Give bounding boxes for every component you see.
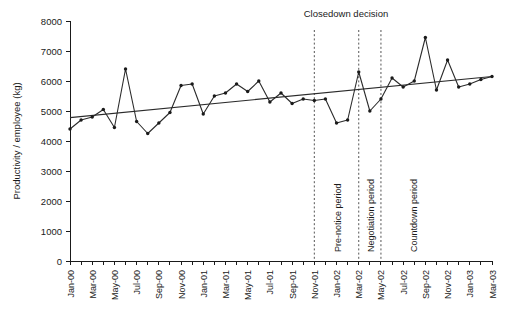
x-tick-label: Jul-00 <box>132 270 142 295</box>
chart-canvas: 010002000300040005000600070008000Product… <box>0 0 521 311</box>
chart-annotations: Closedown decisionPre-notice periodNegot… <box>304 8 419 252</box>
data-series <box>70 38 492 134</box>
x-tick-label: May-02 <box>376 270 386 300</box>
data-point <box>213 94 216 97</box>
y-axis-label: Productivity / employee (kg) <box>11 82 22 199</box>
data-point <box>346 118 349 121</box>
data-point <box>368 109 371 112</box>
productivity-line <box>70 38 492 134</box>
data-point <box>79 118 82 121</box>
data-point <box>179 84 182 87</box>
data-point <box>124 67 127 70</box>
data-point <box>435 88 438 91</box>
annotation-negotiation-period: Negotiation period <box>366 179 376 252</box>
trend-line <box>70 77 492 118</box>
y-axis: 010002000300040005000600070008000Product… <box>11 16 70 267</box>
data-point <box>246 90 249 93</box>
annotation-countdown-period: Countdown period <box>409 179 419 252</box>
x-tick-label: Sep-02 <box>421 270 431 299</box>
x-tick-label: Jan-02 <box>332 270 342 298</box>
x-axis: Jan-00Mar-00May-00Jul-00Sep-00Nov-00Jan-… <box>66 261 498 300</box>
data-point <box>157 121 160 124</box>
data-point <box>413 79 416 82</box>
annotation-closedown-decision: Closedown decision <box>304 8 389 19</box>
data-point <box>490 75 493 78</box>
linear-trend-line <box>70 77 492 118</box>
annotation-pre-notice-period: Pre-notice period <box>333 183 343 252</box>
data-point <box>357 70 360 73</box>
data-point <box>113 126 116 129</box>
data-point <box>235 82 238 85</box>
y-tick-label: 3000 <box>41 166 62 177</box>
data-markers <box>68 36 493 135</box>
data-point <box>479 78 482 81</box>
x-tick-label: Nov-02 <box>443 270 453 299</box>
data-point <box>202 112 205 115</box>
y-tick-label: 7000 <box>41 46 62 57</box>
productivity-chart: 010002000300040005000600070008000Product… <box>0 0 521 311</box>
x-tick-label: May-00 <box>110 270 120 300</box>
data-point <box>279 91 282 94</box>
data-point <box>379 97 382 100</box>
x-tick-label: Mar-02 <box>354 270 364 299</box>
data-point <box>457 85 460 88</box>
y-tick-label: 5000 <box>41 106 62 117</box>
data-point <box>401 85 404 88</box>
x-tick-label: May-01 <box>243 270 253 300</box>
data-point <box>224 91 227 94</box>
data-point <box>446 58 449 61</box>
x-tick-label: Sep-00 <box>154 270 164 299</box>
data-point <box>135 120 138 123</box>
data-point <box>313 99 316 102</box>
data-point <box>102 108 105 111</box>
data-point <box>68 127 71 130</box>
data-point <box>268 100 271 103</box>
y-tick-label: 1000 <box>41 226 62 237</box>
y-tick-label: 6000 <box>41 76 62 87</box>
data-point <box>424 36 427 39</box>
x-tick-label: Jul-02 <box>399 270 409 295</box>
x-tick-label: Mar-01 <box>221 270 231 299</box>
data-point <box>302 97 305 100</box>
data-point <box>290 102 293 105</box>
x-tick-label: Mar-03 <box>488 270 498 299</box>
x-tick-label: Sep-01 <box>288 270 298 299</box>
data-point <box>257 79 260 82</box>
data-point <box>91 115 94 118</box>
data-point <box>335 121 338 124</box>
x-tick-label: Jan-01 <box>199 270 209 298</box>
x-tick-label: Nov-00 <box>177 270 187 299</box>
data-point <box>146 132 149 135</box>
x-tick-label: Mar-00 <box>88 270 98 299</box>
x-tick-label: Nov-01 <box>310 270 320 299</box>
y-tick-label: 8000 <box>41 16 62 27</box>
x-tick-label: Jan-00 <box>66 270 76 298</box>
data-point <box>168 111 171 114</box>
data-point <box>468 82 471 85</box>
y-tick-label: 4000 <box>41 136 62 147</box>
y-tick-label: 0 <box>57 256 62 267</box>
data-point <box>390 76 393 79</box>
x-tick-label: Jan-03 <box>465 270 475 298</box>
data-point <box>324 97 327 100</box>
x-tick-label: Jul-01 <box>265 270 275 295</box>
data-point <box>190 82 193 85</box>
y-tick-label: 2000 <box>41 196 62 207</box>
